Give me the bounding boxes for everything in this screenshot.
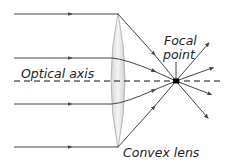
focal-point-marker — [173, 79, 179, 84]
focal-point-label-line2: point — [163, 48, 195, 61]
convex-lens-diagram: Optical axis Focal point Convex lens — [0, 0, 225, 163]
ray-diagram-svg — [0, 0, 225, 163]
optical-axis-label: Optical axis — [21, 67, 94, 80]
convex-lens-label: Convex lens — [123, 146, 199, 159]
focal-point-label-line1: Focal — [164, 34, 197, 47]
